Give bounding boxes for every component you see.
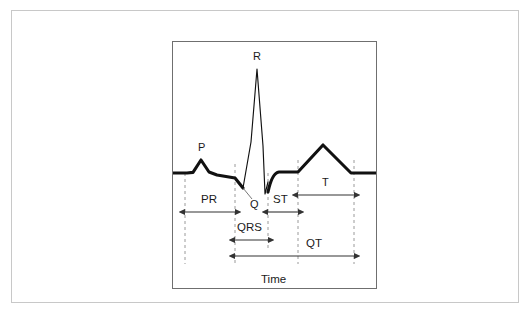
time-axis-label: Time	[261, 274, 286, 285]
q-wave-label: Q	[250, 199, 259, 210]
p-wave-label: P	[198, 142, 205, 153]
r-wave-label: R	[253, 51, 261, 62]
ecg-trace	[173, 160, 243, 188]
ecg-waveform-svg	[173, 42, 377, 289]
qrs-interval-label: QRS	[237, 222, 262, 233]
outer-frame: P R Q T PR QRS ST QT Time	[11, 10, 519, 303]
ecg-trace-qrs	[235, 69, 268, 194]
ecg-figure-panel: P R Q T PR QRS ST QT Time	[172, 41, 377, 289]
qt-interval-label: QT	[306, 238, 322, 249]
figure-root: P R Q T PR QRS ST QT Time	[0, 0, 531, 315]
st-segment-label: ST	[273, 194, 288, 205]
t-wave-label: T	[322, 177, 329, 188]
pr-interval-label: PR	[201, 194, 217, 205]
